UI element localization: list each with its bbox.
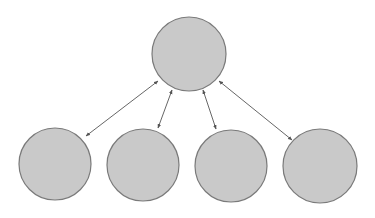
bidirectional-arrow-hub-n1 — [86, 81, 158, 136]
node-circle-n4 — [283, 129, 357, 203]
bidirectional-arrow-hub-n3 — [203, 90, 216, 129]
nodes-layer — [19, 17, 357, 203]
hub-node-circle — [152, 17, 226, 91]
hub-spoke-diagram — [0, 0, 375, 218]
node-circle-n2 — [107, 129, 179, 201]
node-circle-n1 — [19, 128, 91, 200]
bidirectional-arrow-hub-n2 — [158, 90, 172, 128]
node-circle-n3 — [195, 130, 267, 202]
